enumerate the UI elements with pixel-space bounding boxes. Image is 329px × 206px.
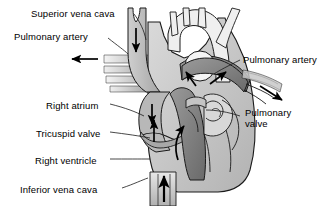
label-inferior-vena-cava: Inferior vena cava: [20, 184, 97, 195]
leader-pulmonary-artery-left: [108, 38, 128, 54]
label-pulmonary-artery-right: Pulmonary artery: [243, 54, 317, 65]
leader-inferior-vena-cava: [122, 178, 148, 188]
label-right-atrium: Right atrium: [46, 100, 98, 111]
heart-anatomy-figure: Superior vena cava Pulmonary artery Pulm…: [0, 0, 329, 206]
label-right-ventricle: Right ventricle: [35, 155, 97, 166]
label-pulmonary-artery-left: Pulmonary artery: [14, 31, 88, 42]
label-pulmonary-valve: Pulmonary valve: [245, 107, 305, 129]
label-superior-vena-cava: Superior vena cava: [31, 8, 115, 19]
label-tricuspid-valve: Tricuspid valve: [36, 128, 101, 139]
